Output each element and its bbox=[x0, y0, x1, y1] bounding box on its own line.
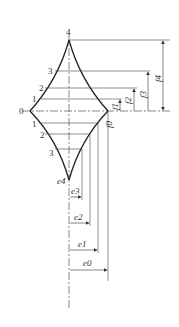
lower-right-curve bbox=[69, 111, 108, 180]
vertex-top-label: 4 bbox=[66, 27, 71, 37]
f0-label: f0 bbox=[104, 120, 114, 128]
f4-label: f4 bbox=[153, 74, 163, 82]
upper-label-2: 2 bbox=[39, 83, 44, 93]
f1-label: f1 bbox=[110, 103, 120, 110]
lower-label-1: 1 bbox=[32, 119, 37, 129]
lower-label-2: 2 bbox=[40, 130, 45, 140]
e0-label: e0 bbox=[83, 258, 92, 268]
f2-label: f2 bbox=[123, 96, 133, 104]
upper-right-curve bbox=[69, 40, 108, 111]
e2-label: e2 bbox=[74, 212, 83, 222]
lower-label-3: 3 bbox=[49, 148, 54, 158]
upper-label-1: 1 bbox=[32, 94, 37, 104]
vertex-bottom-label: e4 bbox=[57, 176, 66, 186]
cam-diagram: 4 0 e4 1 2 3 1 2 3 f0 f1 f2 f3 f4 e3 e2 … bbox=[0, 0, 179, 327]
e3-label: e3 bbox=[71, 186, 80, 196]
upper-label-3: 3 bbox=[48, 66, 53, 76]
f3-label: f3 bbox=[138, 90, 148, 98]
e1-label: e1 bbox=[78, 239, 87, 249]
vertex-left-label: 0 bbox=[19, 106, 24, 116]
